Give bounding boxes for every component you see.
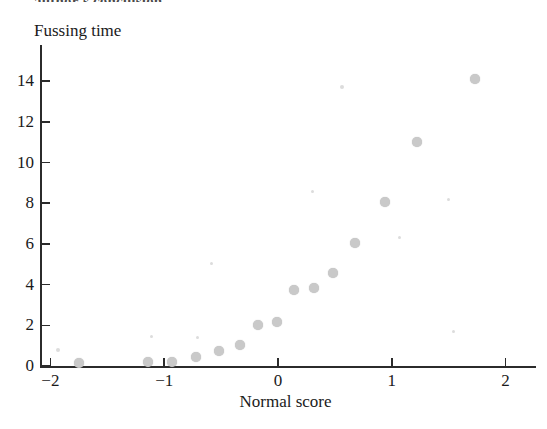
scan-speckle <box>210 262 213 265</box>
scan-speckle <box>452 330 455 333</box>
scan-speckle <box>311 190 314 193</box>
scan-speckle <box>447 198 450 201</box>
scan-speckle <box>196 336 199 339</box>
scan-speckle <box>150 335 153 338</box>
normal-probability-plot: author's conclusion. Fussing time Normal… <box>0 0 547 429</box>
scan-speckle <box>398 236 401 239</box>
scan-speckle-layer <box>0 0 547 429</box>
scan-speckle <box>56 348 60 352</box>
scan-speckle <box>340 85 344 89</box>
